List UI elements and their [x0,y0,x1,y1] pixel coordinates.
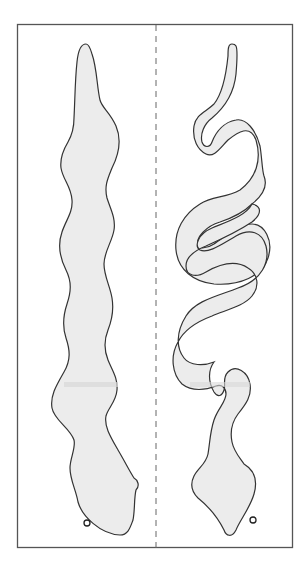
left-fold-band [64,382,118,387]
diagram-canvas: Straight snake cutout Coiled snake cutou… [0,0,307,585]
right-fold-band [190,382,250,387]
snake-diagram [0,0,307,585]
left-snake-marker [84,520,90,526]
right-snake-marker [250,517,256,523]
